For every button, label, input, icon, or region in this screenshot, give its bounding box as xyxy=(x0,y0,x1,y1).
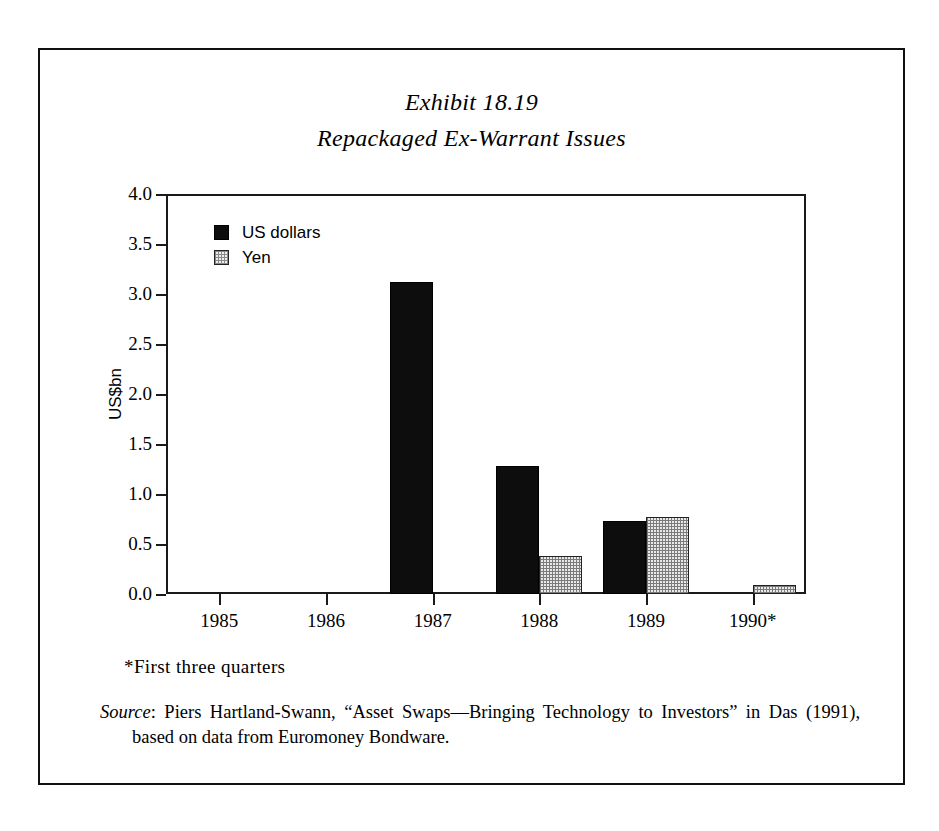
x-axis-tick xyxy=(219,594,221,605)
x-axis-tick-label: 1985 xyxy=(200,610,238,632)
bar-1988-usd xyxy=(496,466,539,594)
x-axis-tick-label: 1990* xyxy=(729,610,777,632)
y-axis-tick-label: 0.5 xyxy=(128,533,152,555)
x-axis-tick-label: 1987 xyxy=(414,610,452,632)
legend-swatch-usd xyxy=(214,225,229,240)
y-axis-tick-label: 2.5 xyxy=(128,333,152,355)
figure-title-block: Exhibit 18.19 Repackaged Ex-Warrant Issu… xyxy=(40,84,903,156)
bar-1988-yen xyxy=(539,556,582,594)
y-axis-tick xyxy=(156,544,166,546)
y-axis-tick-label: 1.5 xyxy=(128,433,152,455)
y-axis-tick xyxy=(156,244,166,246)
x-axis-tick xyxy=(326,594,328,605)
source-label: Source xyxy=(100,702,151,722)
y-axis-tick xyxy=(156,444,166,446)
y-axis-tick xyxy=(156,594,166,596)
y-axis-tick-label: 3.5 xyxy=(128,233,152,255)
legend-swatch-yen xyxy=(214,250,229,265)
bar-1990-yen xyxy=(753,585,796,594)
source-text: Piers Hartland-Swann, “Asset Swaps—Bring… xyxy=(132,702,860,747)
y-axis-tick-label: 1.0 xyxy=(128,483,152,505)
y-axis-tick xyxy=(156,394,166,396)
y-axis-tick-label: 4.0 xyxy=(128,183,152,205)
y-axis-title: US$bn xyxy=(106,368,126,420)
source-note: Source: Piers Hartland-Swann, “Asset Swa… xyxy=(100,700,860,750)
y-axis-tick xyxy=(156,494,166,496)
x-axis-tick xyxy=(539,594,541,605)
x-axis-tick xyxy=(433,594,435,605)
x-axis-tick-label: 1989 xyxy=(627,610,665,632)
legend-item: US dollars xyxy=(214,220,320,245)
exhibit-title: Repackaged Ex-Warrant Issues xyxy=(40,120,903,156)
figure-frame: Exhibit 18.19 Repackaged Ex-Warrant Issu… xyxy=(38,48,905,785)
y-axis-tick xyxy=(156,344,166,346)
legend-label: US dollars xyxy=(242,223,320,243)
legend-item: Yen xyxy=(214,245,320,270)
chart-legend: US dollarsYen xyxy=(214,220,320,270)
x-axis-tick-label: 1986 xyxy=(307,610,345,632)
source-separator: : xyxy=(151,702,165,722)
x-axis-tick-label: 1988 xyxy=(520,610,558,632)
bar-1989-yen xyxy=(646,517,689,594)
bar-1989-usd xyxy=(603,521,646,594)
exhibit-number: Exhibit 18.19 xyxy=(40,84,903,120)
y-axis-tick xyxy=(156,294,166,296)
x-axis-tick xyxy=(646,594,648,605)
legend-label: Yen xyxy=(242,248,271,268)
y-axis-tick-label: 3.0 xyxy=(128,283,152,305)
footnote: *First three quarters xyxy=(124,656,285,678)
bar-chart: US$bn 0.00.51.01.52.02.53.03.54.0 198519… xyxy=(166,194,806,594)
y-axis-tick-label: 2.0 xyxy=(128,383,152,405)
y-axis-tick xyxy=(156,194,166,196)
x-axis-tick xyxy=(753,594,755,605)
bar-1987-usd xyxy=(390,282,433,594)
y-axis-tick-label: 0.0 xyxy=(128,583,152,605)
